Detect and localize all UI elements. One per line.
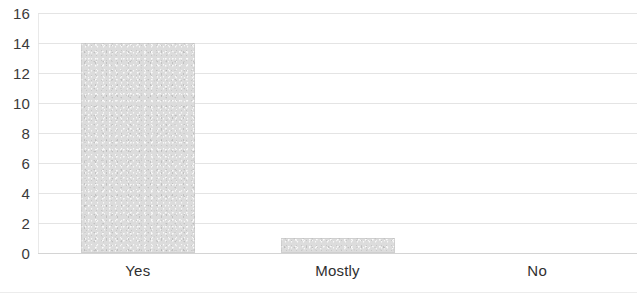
x-axis-label-mostly: Mostly: [315, 263, 360, 278]
y-axis-tick-label: 2: [0, 216, 30, 231]
y-axis-tick-label: 14: [0, 36, 30, 51]
x-axis-baseline: [38, 253, 637, 254]
plot-area: [38, 13, 637, 253]
x-axis-label-yes: Yes: [125, 263, 150, 278]
bar-mostly[interactable]: [281, 238, 395, 253]
bar-yes[interactable]: [81, 43, 195, 253]
y-axis-tick-label: 0: [0, 246, 30, 261]
y-axis-tick-label: 8: [0, 126, 30, 141]
y-axis-tick-label: 6: [0, 156, 30, 171]
y-axis-tick-label: 10: [0, 96, 30, 111]
y-axis-tick-label: 16: [0, 6, 30, 21]
page-rule: [0, 292, 637, 293]
y-axis-tick-label: 12: [0, 66, 30, 81]
bar-chart: 0246810121416 YesMostlyNo: [0, 0, 637, 300]
x-axis-label-no: No: [527, 263, 547, 278]
y-axis-tick-label: 4: [0, 186, 30, 201]
